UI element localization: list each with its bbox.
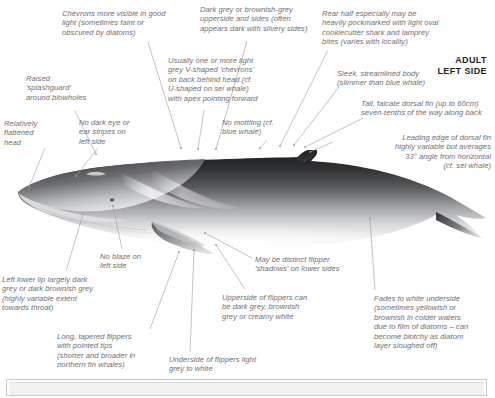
whale-eye	[110, 199, 114, 202]
annotation-tall-falcate-dorsal-fin: Tall, falcate dorsal fin (up to 60cm) se…	[361, 99, 495, 118]
whale-belly-highlight	[110, 214, 390, 250]
leader-sleek-body-endpoint	[293, 144, 295, 146]
annotation-no-blaze-left-side: No blaze on left side	[100, 252, 170, 271]
annotation-no-mottling: No mottling (cf. blue whale)	[222, 118, 304, 137]
leader-no-mottling	[260, 140, 267, 148]
annotation-fades-to-white-underside: Fades to white underside (sometimes yell…	[374, 294, 495, 350]
annotation-cookiecutter-bites: Rear half especially may be heavily pock…	[322, 9, 492, 47]
annotation-relatively-flattened-head: Relatively flattened head	[4, 119, 62, 147]
annotation-underside-of-flippers: Underside of flippers light grey to whit…	[169, 355, 299, 374]
bottom-panel-inner	[9, 382, 484, 395]
annotation-left-lower-lip-dark: Left lower lip largely dark grey or dark…	[2, 275, 142, 313]
annotation-may-be-flipper-shadows: May be distinct flipper 'shadows' on low…	[255, 255, 380, 274]
annotation-long-tapered-flippers: Long, tapered flippers with pointed tips…	[57, 332, 177, 370]
annotation-no-dark-eye-stripes: No dark eye or ear stripes on left side	[79, 118, 154, 146]
plate-title: ADULT LEFT SIDE	[367, 55, 487, 77]
bottom-panel	[6, 379, 487, 396]
leader-chevrons-visibility-endpoint	[180, 147, 182, 149]
annotation-raised-splashguard: Raised 'splashguard' around blowholes	[26, 74, 108, 102]
leader-cookiecutter-bites-endpoint	[279, 145, 281, 147]
illustration-plate: Chevrons more visible in good light (som…	[0, 0, 495, 398]
annotation-leading-edge-dorsal-fin: Leading edge of dorsal fin highly variab…	[338, 133, 491, 171]
leader-v-shaped-chevrons	[198, 110, 204, 149]
leader-no-mottling-endpoint	[259, 147, 261, 149]
leader-tall-dorsal-fin-endpoint	[304, 146, 306, 148]
annotation-chevrons-visibility: Chevrons more visible in good light (som…	[62, 9, 204, 37]
annotation-v-shaped-chevrons: Usually one or more light grey V-shaped …	[168, 56, 296, 103]
annotation-upperside-of-flippers: Upperside of flippers can be dark grey, …	[222, 293, 352, 321]
